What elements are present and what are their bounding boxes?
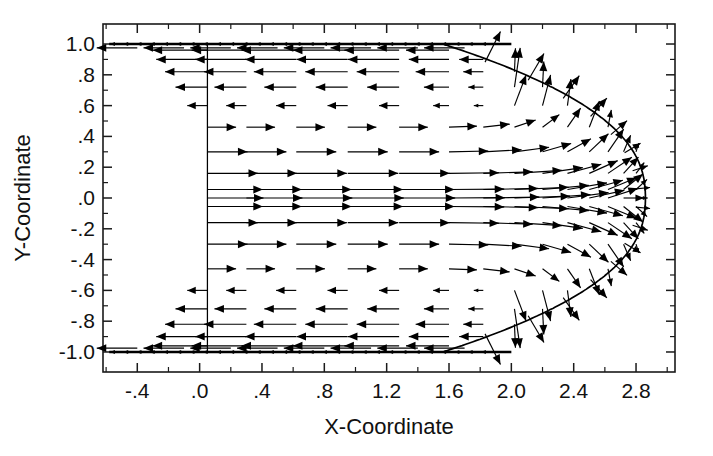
field-arrow-head [216,350,221,354]
field-arrow-head [441,42,446,46]
field-arrow-head [430,240,440,248]
field-arrow-head [561,246,571,254]
field-arrow-head [362,42,367,46]
field-arrow-head [512,242,522,250]
field-arrow-head [348,55,358,63]
field-arrow-head [379,287,387,294]
field-arrow-head [277,240,287,248]
field-arrow-head [165,320,175,328]
x-tick-label: 1.6 [434,379,463,402]
field-arrow-head [245,55,255,63]
field-arrow-head [375,42,380,46]
field-arrow-head [156,333,166,341]
field-arrow-head [378,240,388,248]
field-arrow-head [327,240,337,248]
field-arrow-head [315,265,325,273]
field-arrow-head [367,265,377,273]
field-arrow-head [276,287,284,294]
field-arrow-head [375,350,380,354]
field-arrow-head [468,306,474,311]
field-arrow-head [238,148,248,156]
field-arrow-head [416,68,426,76]
field-arrow-head [519,75,526,85]
field-arrow-head [175,83,185,91]
field-arrow-head [441,350,446,354]
field-arrow-head [536,54,544,64]
field-arrow-head [204,68,214,76]
field-arrow-head [348,333,358,341]
field-arrow-head [481,42,486,46]
field-arrow-head [254,320,264,328]
x-tick-label: -.4 [125,379,150,402]
field-arrow-head [389,169,399,177]
field-arrow-head [348,42,353,46]
field-arrow-head [433,103,440,109]
field-arrow-head [297,55,307,63]
field-arrow-head [572,278,581,288]
field-arrow-head [216,42,221,46]
field-arrow-head [254,68,264,76]
field-arrow-head [467,122,477,130]
field-arrow-head [176,350,181,354]
y-tick-label: -1.0 [59,340,95,363]
field-arrow-head [110,350,115,354]
y-tick-label: -.6 [70,278,95,301]
field-arrow-head [322,42,327,46]
x-tick-label: .0 [191,379,209,402]
field-arrow-head [415,350,420,354]
field-arrow-head [433,288,440,294]
field-arrow-head [227,123,237,131]
field-arrow-head [195,55,205,63]
field-arrow-head [474,104,479,108]
field-arrow-head [500,267,510,275]
field-arrow-head [401,42,406,46]
field-arrow-head [97,344,107,352]
field-arrow-head [214,305,224,313]
field-arrow-head [203,42,208,46]
field-arrow-head [440,219,450,227]
y-tick-label: -.4 [70,248,95,271]
field-arrow-head [337,169,347,177]
field-arrow-head [226,102,234,109]
field-arrow-head [512,146,522,154]
field-arrow-head [561,142,571,150]
field-arrow-head [467,266,477,274]
field-arrow-head [264,305,274,313]
y-axis-label: Y-Coordinate [10,134,35,262]
x-tick-label: 2.4 [559,379,589,402]
field-arrow-head [591,225,601,233]
field-arrow-head [418,123,428,131]
field-arrow-head [459,333,469,341]
field-arrow-head [607,110,613,118]
field-arrow-head [295,350,300,354]
field-arrow-head [337,219,347,227]
field-arrow-head [454,350,459,354]
field-arrow-head [389,219,399,227]
field-arrow-head [424,83,434,91]
x-axis-label: X-Coordinate [324,414,454,439]
figure-canvas: -.4.0.4.81.21.62.02.42.81.0.8.6.4.2.0-.2… [0,0,713,456]
field-arrow-head [500,121,510,129]
field-arrow-head [256,350,261,354]
field-arrow-head [581,139,591,147]
field-arrow-head [190,350,195,354]
field-arrow-head [229,350,234,354]
field-arrow-head [328,287,336,294]
field-arrow-head [309,350,314,354]
field-arrow-head [276,102,284,109]
x-tick-label: 2.8 [621,379,650,402]
field-arrow-head [357,320,367,328]
field-arrow-head [214,83,224,91]
field-arrow-head [539,61,547,71]
field-arrow-head [282,350,287,354]
field-arrow-head [526,269,536,276]
field-arrow-head [175,305,185,313]
field-arrow-head [256,42,261,46]
field-arrow-head [519,311,526,321]
field-arrow-head [378,148,388,156]
field-arrow-head [481,350,486,354]
field-arrow-head [123,350,128,354]
field-arrow-head [163,350,168,354]
field-arrow-head [277,148,287,156]
field-arrow-head [379,102,387,109]
